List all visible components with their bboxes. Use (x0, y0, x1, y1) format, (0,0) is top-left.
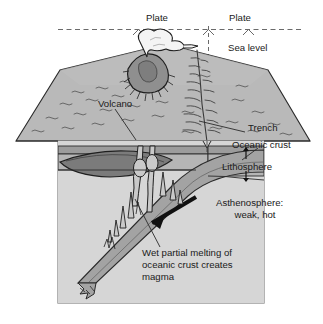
label-plate-right: Plate (229, 12, 251, 23)
label-lithosphere: Lithosphere (222, 161, 272, 172)
label-melting-line2: oceanic crust creates (142, 259, 233, 270)
label-oceanic-crust: Oceanic crust (232, 139, 291, 150)
label-plate-left: Plate (146, 12, 168, 23)
label-melting-line3: magma (142, 271, 175, 282)
label-asthenosphere-line2: weak, hot (233, 209, 275, 220)
label-volcano: Volcano (98, 98, 132, 109)
label-trench: Trench (248, 122, 278, 133)
label-melting-line1: Wet partial melting of (142, 247, 232, 258)
diagram-canvas: Plate Plate Sea level Volcano Trench Oce… (0, 0, 323, 324)
plate-tectonics-block-diagram: Plate Plate Sea level Volcano Trench Oce… (0, 0, 323, 324)
label-sea-level: Sea level (228, 42, 267, 53)
label-asthenosphere-line1: Asthenosphere: (216, 197, 283, 208)
